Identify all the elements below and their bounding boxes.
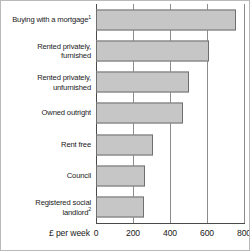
bar-row: Owned outright [1,98,250,129]
bar-chart-figure: Buying with a mortgage1Rented privately,… [0,0,250,251]
bar-row: Council [1,160,250,191]
bar-category-label: Rented privately,unfurnished [5,73,91,92]
x-tick-label-400: 400 [163,228,177,238]
x-tick-label-0: 0 [94,228,99,238]
bar-category-label: Buying with a mortgage1 [5,15,91,24]
bar-row: Rent free [1,129,250,160]
bar-category-label: Registered sociallandlord2 [5,198,91,217]
x-tick-label-800: 800 [237,228,250,238]
bar [96,103,183,124]
bar [96,134,153,155]
bar-category-label: Rent free [5,140,91,149]
x-axis-line [96,223,245,224]
bar-rows-container: Buying with a mortgage1Rented privately,… [1,4,250,223]
bar-row: Registered sociallandlord2 [1,192,250,223]
bar [96,197,144,218]
bar [96,72,189,93]
bar-category-label: Council [5,171,91,180]
x-tick-label-600: 600 [200,228,214,238]
bar-row: Rented privately,unfurnished [1,67,250,98]
x-tick-label-200: 200 [126,228,140,238]
bar-category-label: Rented privately,furnished [5,42,91,61]
x-axis-title: £ per week [34,228,90,238]
bar-category-label: Owned outright [5,109,91,118]
bar-row: Rented privately,furnished [1,35,250,66]
bar [96,166,145,187]
bar [96,9,236,30]
bar [96,40,209,61]
bar-row: Buying with a mortgage1 [1,4,250,35]
